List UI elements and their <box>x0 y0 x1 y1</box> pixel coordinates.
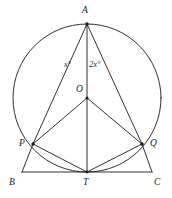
angle-label-x: x° <box>64 60 71 69</box>
point-label-c: C <box>154 178 161 188</box>
vertex-dot-q <box>140 142 143 145</box>
vertex-dot-p <box>31 142 34 145</box>
vertex-dot-o <box>86 97 89 100</box>
segment-q-t <box>87 144 142 172</box>
angle-label-2x: 2x° <box>89 60 100 69</box>
segment-a-q <box>87 24 142 144</box>
segment-o-p <box>33 98 87 144</box>
point-label-a: A <box>82 6 88 16</box>
point-label-t: T <box>83 178 88 188</box>
point-label-q: Q <box>150 139 157 149</box>
point-label-o: O <box>76 85 83 95</box>
vertex-dot-t <box>86 171 89 174</box>
point-label-b: B <box>9 178 15 188</box>
geometry-figure: A O P Q B T C x° 2x° <box>0 0 172 198</box>
geometry-canvas <box>0 0 172 198</box>
segment-o-q <box>87 98 142 144</box>
segment-p-t <box>33 144 87 172</box>
vertex-dot-a <box>85 22 88 25</box>
point-label-p: P <box>19 139 25 149</box>
